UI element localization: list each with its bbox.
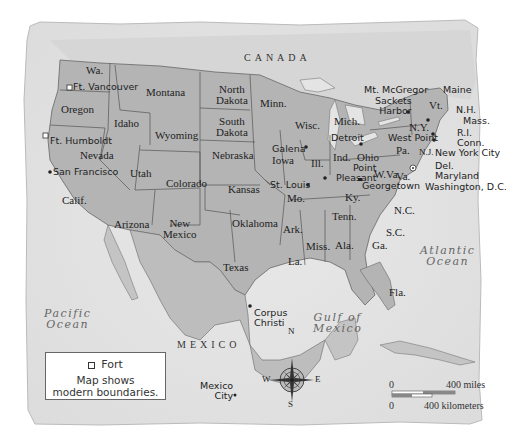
state-label-pa: Pa. <box>396 145 410 156</box>
atlantic-ocean-label: Atlantic Ocean <box>420 245 475 267</box>
state-label-wa: Wa. <box>86 65 103 76</box>
compass-n: N <box>288 327 295 336</box>
capital-marker <box>410 165 416 171</box>
state-label-new-mexico: New Mexico <box>163 218 197 240</box>
state-label-oklahoma: Oklahoma <box>232 218 278 229</box>
state-label-calif: Calif. <box>62 195 87 206</box>
map-legend: Fort Map shows modern boundaries. <box>45 352 166 400</box>
scale-miles-label: 400 miles <box>446 380 485 390</box>
state-label-utah: Utah <box>130 168 151 179</box>
state-label-ky: Ky. <box>345 192 360 203</box>
state-label-maine: Maine <box>443 85 472 95</box>
pacific-ocean-label: Pacific Ocean <box>44 308 91 330</box>
state-label-mass: Mass. <box>463 116 490 126</box>
state-label-south-dakota: South Dakota <box>216 116 248 138</box>
state-label-ill: Ill. <box>311 158 324 169</box>
state-label-oregon: Oregon <box>61 104 94 115</box>
state-label-nc: N.C. <box>394 205 415 216</box>
state-label-idaho: Idaho <box>114 118 139 129</box>
state-label-tenn: Tenn. <box>332 211 357 222</box>
compass-w: W <box>262 375 271 384</box>
place-label-sackets-harbor: Sackets Harbor <box>375 96 412 115</box>
place-label-san-francisco: San Francisco <box>53 167 118 177</box>
place-label-detroit: Detroit <box>331 133 364 143</box>
fort-square-icon <box>88 362 95 369</box>
state-label-miss: Miss. <box>306 241 330 252</box>
place-label-st-louis: St. Louis <box>270 180 310 190</box>
state-label-ind: Ind. <box>333 152 350 163</box>
place-label-ft-humboldt: Ft. Humboldt <box>50 136 112 146</box>
state-label-texas: Texas <box>223 262 249 273</box>
state-label-wva: W.Va. <box>374 169 400 180</box>
canada-label: CANADA <box>244 53 311 63</box>
scale-km-zero: 0 <box>389 401 394 411</box>
place-label-new-york-city: New York City <box>435 148 500 158</box>
state-label-wyoming: Wyoming <box>155 130 198 141</box>
compass-s: S <box>288 400 293 409</box>
scale-miles-zero: 0 <box>389 380 394 390</box>
state-label-colorado: Colorado <box>166 178 207 189</box>
scale-km-label: 400 kilometers <box>424 401 484 411</box>
mexico-label: MEXICO <box>177 340 240 350</box>
state-label-sc: S.C. <box>386 227 405 238</box>
state-label-la: La. <box>288 256 302 267</box>
state-label-mich: Mich. <box>334 116 360 127</box>
state-label-nj: N.J. <box>419 148 434 157</box>
state-label-fla: Fla. <box>389 287 406 298</box>
place-label-mt-mcgregor: Mt. McGregor <box>364 85 428 95</box>
gulf-of-mexico-label: Gulf of Mexico <box>313 312 362 334</box>
place-label-georgetown: Georgetown <box>362 181 420 191</box>
place-label-galena: Galena <box>272 144 306 154</box>
state-label-ark: Ark. <box>283 224 303 235</box>
state-label-arizona: Arizona <box>114 219 149 230</box>
map: CANADA MEXICO Pacific Ocean Atlantic Oce… <box>0 0 530 442</box>
state-label-vt: Vt. <box>429 100 443 111</box>
state-label-minn: Minn. <box>260 98 287 109</box>
place-label-corpus-christi: Corpus Christi <box>254 308 287 327</box>
place-label-mexico-city: Mexico City <box>200 381 233 400</box>
state-label-mo: Mo. <box>287 193 305 204</box>
place-label-ft-vancouver: Ft. Vancouver <box>73 82 138 92</box>
state-label-nebraska: Nebraska <box>212 150 254 161</box>
state-label-nh: N.H. <box>456 105 476 115</box>
state-label-kansas: Kansas <box>228 184 260 195</box>
legend-fort-row: Fort <box>46 358 165 371</box>
legend-note: Map shows modern boundaries. <box>46 374 165 398</box>
state-label-ala: Ala. <box>335 240 354 251</box>
state-label-north-dakota: North Dakota <box>216 84 248 106</box>
state-label-nevada: Nevada <box>80 150 114 161</box>
state-label-iowa: Iowa <box>272 155 294 166</box>
state-label-maryland: Maryland <box>435 171 479 181</box>
place-label-west-point: West Point <box>388 133 438 143</box>
state-label-ga: Ga. <box>372 240 388 251</box>
state-label-montana: Montana <box>146 87 185 98</box>
compass-e: E <box>315 375 321 384</box>
state-label-wisc: Wisc. <box>295 120 320 131</box>
place-label-washington-dc: Washington, D.C. <box>425 182 507 192</box>
